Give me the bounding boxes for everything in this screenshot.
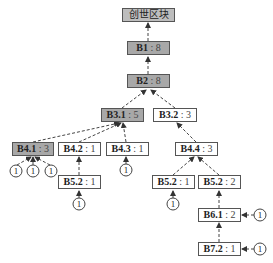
vote-label: 1 [49, 166, 54, 176]
block-id: B5.2 [64, 176, 83, 187]
block-id: B2 [136, 75, 148, 86]
edge-b31-b2 [122, 90, 146, 108]
block-b3-1: B3.1 : 5 [101, 108, 144, 122]
block-weight: 1 [230, 243, 235, 254]
block-b7-2: B7.2 : 1 [198, 242, 241, 256]
block-b5-2-mid: B5.2 : 1 [152, 175, 195, 189]
block-id: B4.1 [17, 143, 36, 154]
block-b4-2: B4.2 : 1 [58, 142, 101, 156]
vote-label: 1 [31, 166, 36, 176]
edge-vote-b41-a [17, 157, 31, 165]
genesis-block: 创世区块 [122, 8, 175, 22]
vote-label: 1 [77, 199, 82, 209]
block-weight: 8 [156, 75, 161, 86]
block-id: B5.2 [204, 176, 223, 187]
block-weight: 3 [44, 143, 49, 154]
genesis-label: 创世区块 [129, 9, 169, 20]
vote-label: 1 [124, 165, 129, 175]
block-b4-4: B4.4 : 3 [175, 142, 218, 156]
edge-vote-b41-c [35, 157, 50, 165]
block-weight: 1 [138, 143, 143, 154]
block-b3-2: B3.2 : 3 [153, 108, 197, 122]
block-weight: 1 [90, 143, 95, 154]
vote-label: 1 [258, 210, 263, 220]
block-id: B3.2 [159, 109, 178, 120]
edge-b42-b31 [79, 123, 121, 142]
edge-b41-b31 [33, 123, 119, 142]
edge-b32-b2 [151, 90, 175, 108]
block-b2: B2 : 8 [127, 74, 170, 88]
edges-layer: 1 1 1 1 1 1 1 1 [0, 0, 273, 263]
block-weight: 3 [207, 143, 212, 154]
block-id: B4.3 [112, 143, 131, 154]
block-weight: 8 [156, 42, 161, 53]
block-weight: 2 [230, 209, 235, 220]
block-id: B3.1 [107, 109, 126, 120]
block-b6-1: B6.1 : 2 [198, 208, 241, 222]
vote-label: 1 [171, 199, 176, 209]
edge-b52c-b44 [198, 157, 219, 175]
block-b4-1: B4.1 : 3 [12, 142, 54, 156]
block-id: B6.1 [204, 209, 223, 220]
block-id: B1 [136, 42, 148, 53]
block-b5-2-left: B5.2 : 1 [58, 175, 101, 189]
block-id: B4.4 [181, 143, 200, 154]
block-id: B5.2 [158, 176, 177, 187]
edge-b43-b31 [123, 123, 126, 142]
block-b1: B1 : 8 [127, 41, 170, 55]
block-weight: 5 [133, 109, 138, 120]
block-id: B7.2 [204, 243, 223, 254]
block-b5-2-right: B5.2 : 2 [198, 175, 241, 189]
block-weight: 3 [186, 109, 191, 120]
block-weight: 2 [230, 176, 235, 187]
vote-label: 1 [14, 166, 19, 176]
vote-label: 1 [258, 244, 263, 254]
block-b4-3: B4.3 : 1 [106, 142, 149, 156]
block-weight: 1 [90, 176, 95, 187]
block-weight: 1 [184, 176, 189, 187]
block-id: B4.2 [64, 143, 83, 154]
edge-b52b-b44 [173, 157, 194, 175]
edge-b44-b32 [177, 123, 196, 142]
